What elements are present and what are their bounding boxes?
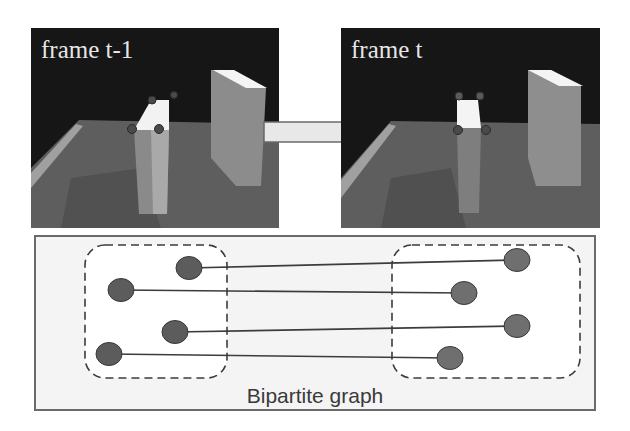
graph-node-l3 [162, 321, 188, 344]
graph-node-l1 [176, 257, 202, 280]
graph-node-r1 [504, 249, 530, 272]
bipartite-graph [0, 0, 630, 431]
graph-caption: Bipartite graph [0, 384, 630, 408]
graph-node-r4 [437, 347, 463, 370]
graph-node-r2 [451, 282, 477, 305]
graph-node-l2 [108, 279, 134, 302]
graph-node-r3 [504, 315, 530, 338]
graph-node-l4 [96, 343, 122, 366]
